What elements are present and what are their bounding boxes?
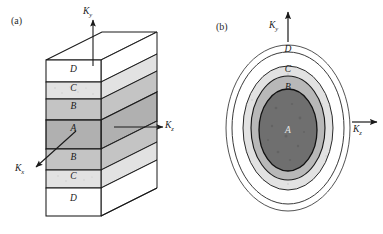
panel-b-drawing	[0, 0, 383, 234]
k-y-label-panel-b: Ky	[269, 20, 278, 32]
figure-root: (a)	[0, 0, 383, 234]
k-z-label-panel-b: Kz	[353, 124, 362, 136]
ellipse-region-a	[259, 89, 317, 171]
